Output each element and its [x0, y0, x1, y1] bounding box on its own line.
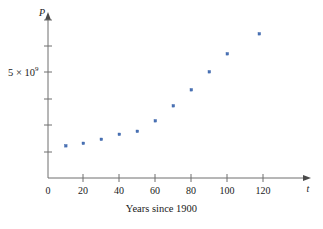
x-axis-caption: Years since 1900	[0, 203, 323, 214]
y-tick-label-exponent: 9	[35, 65, 39, 73]
data-point	[100, 138, 103, 141]
data-point	[258, 33, 261, 36]
data-point	[118, 133, 121, 136]
x-tick-label-40: 40	[114, 185, 124, 196]
x-tick-label-120: 120	[256, 185, 271, 196]
x-tick-label-80: 80	[186, 185, 196, 196]
data-point	[172, 105, 175, 108]
data-point	[208, 71, 211, 74]
data-point	[154, 120, 157, 123]
y-axis-arrow-icon	[45, 12, 51, 20]
x-tick-label-60: 60	[150, 185, 160, 196]
data-point	[190, 89, 193, 92]
data-point	[226, 53, 229, 56]
y-tick-label-5e9: 5 × 109	[8, 65, 38, 78]
scatter-plot-canvas: 0 20 40 60 80 100 120 P t	[0, 0, 323, 229]
x-tick-label-20: 20	[78, 185, 88, 196]
x-axis-symbol: t	[307, 183, 310, 194]
data-point	[65, 145, 68, 148]
data-point-group	[65, 33, 261, 148]
y-axis-symbol: P	[38, 7, 45, 18]
x-axis-arrow-icon	[303, 175, 311, 181]
chart-figure: 0 20 40 60 80 100 120 P t 5 × 109 Years …	[0, 0, 323, 229]
data-point	[82, 142, 85, 145]
x-tick-label-100: 100	[220, 185, 235, 196]
data-point	[136, 130, 139, 133]
y-tick-label-mantissa: 5 × 10	[8, 67, 35, 78]
x-tick-label-0: 0	[46, 185, 51, 196]
